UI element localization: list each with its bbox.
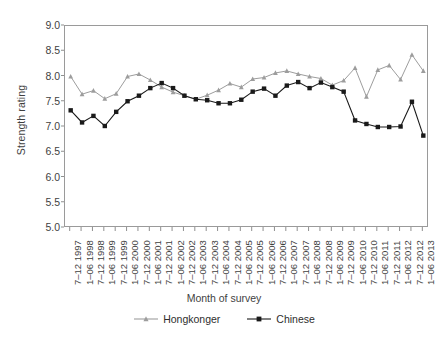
data-point-marker [319,80,323,84]
data-point-marker [387,63,392,68]
data-point-marker [205,98,209,102]
y-axis-tick-label: 6.0 [24,171,60,182]
x-axis-tick-label: 1–06 1999 [107,240,117,285]
data-point-marker [91,88,96,93]
y-axis-tick-label: 6.5 [24,146,60,157]
series-line [71,55,424,99]
x-axis-tick-label: 1–06 2012 [403,240,413,285]
data-point-marker [398,124,402,128]
data-point-marker [194,97,198,101]
x-axis-tick-label: 1–06 2001 [153,240,163,285]
x-axis-tick-label: 1–06 2003 [198,240,208,285]
x-axis-tick-label: 1–06 2005 [244,240,254,285]
data-point-marker [137,93,141,97]
y-axis-tick-label: 5.5 [24,197,60,208]
data-point-marker [341,89,345,93]
data-point-marker [307,86,311,90]
data-point-marker [376,125,380,129]
x-axis-tick-label: 1–06 2007 [289,240,299,285]
legend-item-hongkonger[interactable]: Hongkonger [133,313,220,325]
x-axis-tick-label: 7–12 2004 [233,240,243,285]
plot-area [64,25,428,227]
x-axis-tick-label: 7–12 2010 [369,240,379,285]
x-axis-tick-label: 7–12 2006 [278,240,288,285]
y-axis-tick-label: 8.5 [24,45,60,56]
data-point-marker [148,77,153,82]
data-point-marker [262,86,266,90]
x-axis-tick-label: 7–12 2001 [164,240,174,285]
x-axis-tick-label: 1–06 2002 [176,240,186,285]
data-point-marker [125,99,129,103]
x-axis-tick-label: 1–06 2011 [380,241,390,285]
data-point-marker [91,114,95,118]
data-point-marker [80,120,84,124]
y-axis-tick-label: 7.0 [24,121,60,132]
data-point-marker [68,108,72,112]
x-axis-tick-label: 7–12 1999 [119,240,129,285]
data-point-marker [387,125,391,129]
data-point-marker [68,74,73,79]
x-axis-tick-label: 7–12 2003 [210,240,220,285]
y-axis-tick-label: 8.0 [24,70,60,81]
data-point-marker [148,86,152,90]
data-point-marker [216,88,221,93]
x-axis-tick-label: 1–06 1998 [85,240,95,285]
data-point-marker [285,83,289,87]
data-point-marker [410,100,414,104]
data-point-marker [330,85,334,89]
x-axis-tick-label: 1–06 2006 [267,240,277,285]
y-axis-tick-label: 9.0 [24,20,60,31]
data-point-marker [114,110,118,114]
data-point-marker [410,52,415,57]
legend-label: Chinese [276,313,315,325]
x-axis-tick-label: 7–12 2000 [142,240,152,285]
data-point-marker [273,93,277,97]
x-axis-tick-label: 7–12 2008 [324,240,334,285]
data-point-marker [239,98,243,102]
data-point-marker [103,124,107,128]
data-point-marker [228,101,232,105]
triangle-marker-icon [133,313,159,325]
x-axis-tick-label: 1–06 2008 [312,240,322,285]
data-point-marker [182,93,186,97]
x-axis-tick-label: 1–06 2000 [130,240,140,285]
chart-legend: HongkongerChinese [0,313,448,325]
x-axis-title: Month of survey [0,292,448,304]
x-axis-tick-label: 1–06 2010 [358,240,368,285]
data-point-marker [228,81,233,86]
chart-figure: Strength rating 9.08.58.07.57.06.56.05.5… [0,0,448,343]
x-axis-tick-label: 1–06 2013 [426,240,436,285]
legend-item-chinese[interactable]: Chinese [246,313,315,325]
data-point-marker [353,65,358,70]
data-point-marker [284,68,289,73]
x-axis-tick-label: 7–12 1997 [73,240,83,285]
x-axis-tick-label: 7–12 2005 [255,240,265,285]
data-point-marker [159,81,163,85]
series-chinese [68,80,425,138]
data-point-marker [250,89,254,93]
x-axis-tick-label: 1–06 2009 [335,240,345,285]
x-axis-tick-label: 7–12 2009 [346,240,356,285]
x-axis-tick-label: 7–12 2011 [392,241,402,285]
data-point-marker [216,101,220,105]
data-point-marker [364,122,368,126]
data-point-marker [296,80,300,84]
x-axis-tick-label: 1–06 2004 [221,240,231,285]
y-axis-tick-label: 5.0 [24,222,60,233]
data-point-marker [171,86,175,90]
data-point-marker [421,133,425,137]
series-layer [65,26,429,228]
legend-label: Hongkonger [163,313,220,325]
series-line [71,82,424,136]
y-axis-tick-label: 7.5 [24,96,60,107]
square-marker-icon [246,313,272,325]
data-point-marker [364,94,369,99]
x-axis-tick-label: 7–12 1998 [96,240,106,285]
y-axis-tick-labels: 9.08.58.07.57.06.56.05.55.0 [24,0,60,247]
data-point-marker [137,71,142,76]
x-axis-tick-label: 7–12 2007 [301,240,311,285]
data-point-marker [353,118,357,122]
series-hongkonger [68,52,425,101]
x-axis-tick-label: 7–12 2012 [415,240,425,285]
x-axis-tick-label: 7–12 2002 [187,240,197,285]
